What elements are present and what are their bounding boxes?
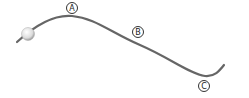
point-label-c: C xyxy=(198,80,210,92)
ball xyxy=(22,28,35,41)
point-label-a: A xyxy=(66,2,78,14)
curved-track xyxy=(17,16,224,76)
diagram-canvas xyxy=(0,0,249,98)
point-label-b: B xyxy=(132,26,144,38)
